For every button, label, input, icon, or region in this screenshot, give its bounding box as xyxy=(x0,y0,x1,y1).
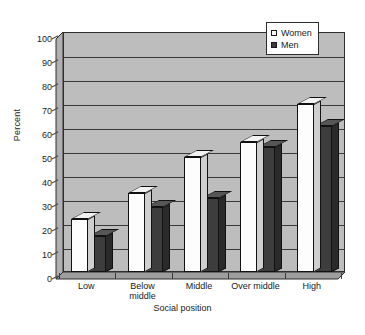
bar-face xyxy=(184,157,201,272)
bar-women-2 xyxy=(184,157,201,272)
bar-face xyxy=(128,193,145,272)
legend-item-women: Women xyxy=(271,27,312,38)
bar-women-3 xyxy=(240,142,257,272)
bar-side xyxy=(314,100,321,272)
x-tick-mark xyxy=(172,273,173,279)
x-tick-label: Middle xyxy=(186,281,213,291)
bar-women-4 xyxy=(297,104,314,272)
legend-swatch-women xyxy=(271,30,277,36)
x-tick-label: High xyxy=(303,281,322,291)
bar-face xyxy=(71,219,88,272)
x-tick-label: Over middle xyxy=(231,281,280,291)
bar-side xyxy=(88,215,95,272)
legend: WomenMen xyxy=(266,22,319,55)
x-tick-mark xyxy=(228,273,229,279)
bar-women-0 xyxy=(71,219,88,272)
bar-side xyxy=(163,203,170,272)
bar-side xyxy=(257,139,264,272)
bar-women-1 xyxy=(128,193,145,272)
x-tick-mark xyxy=(59,273,60,279)
bar-face xyxy=(297,104,314,272)
x-tick-mark xyxy=(285,273,286,279)
bar-side xyxy=(145,189,152,272)
bar-side xyxy=(106,232,113,272)
bar-side xyxy=(275,143,282,272)
bar-side xyxy=(219,194,226,272)
x-tick-mark xyxy=(341,273,342,279)
legend-label: Men xyxy=(281,40,299,50)
bar-chart: 0102030405060708090100 Percent LowBelow … xyxy=(0,0,365,335)
legend-item-men: Men xyxy=(271,39,312,50)
x-tick-mark xyxy=(115,273,116,279)
bar-face xyxy=(240,142,257,272)
bar-side xyxy=(332,122,339,272)
x-tick-label: Low xyxy=(78,281,95,291)
legend-swatch-men xyxy=(271,42,277,48)
bar-side xyxy=(201,153,208,272)
x-axis-title: Social position xyxy=(0,303,365,313)
x-tick-label: Below middle xyxy=(129,281,156,301)
legend-label: Women xyxy=(281,28,312,38)
